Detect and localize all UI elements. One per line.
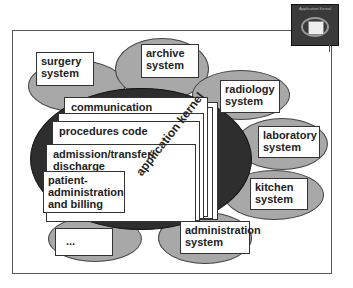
icon-screen: [308, 21, 324, 35]
laboratory-system-box: laboratory system: [258, 126, 320, 158]
radiology-system-box: radiology system: [220, 80, 280, 113]
surgery-system-box: surgery system: [36, 52, 94, 86]
application-kernel-icon: Application Kernel: [291, 4, 339, 46]
layer-patient-administration: patient- administration and billing: [43, 171, 125, 213]
kitchen-system-box: kitchen system: [250, 178, 308, 210]
connector-line: [329, 44, 330, 52]
administration-system-box: administration system: [180, 221, 250, 254]
archive-system-box: archive system: [141, 44, 199, 78]
icon-title: Application Kernel: [292, 7, 338, 11]
other-system-box: ...: [55, 228, 113, 256]
